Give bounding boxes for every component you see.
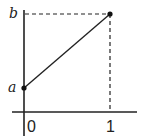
label-x-1: 1 (106, 118, 115, 135)
label-b: b (9, 5, 18, 21)
point-end (107, 11, 112, 16)
diagram-canvas: b a 0 1 (0, 0, 147, 140)
label-a: a (8, 79, 16, 95)
line-segment (24, 14, 110, 88)
point-start (21, 85, 26, 90)
label-x-0: 0 (27, 118, 36, 135)
